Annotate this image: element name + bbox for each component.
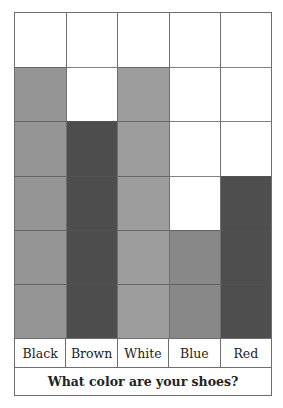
category-label-brown: Brown bbox=[66, 339, 117, 367]
gridline-horizontal bbox=[15, 284, 271, 285]
gridline-vertical bbox=[169, 13, 170, 338]
gridline-horizontal bbox=[15, 230, 271, 231]
gridline-vertical bbox=[66, 13, 67, 338]
category-label-red: Red bbox=[221, 339, 271, 367]
gridline-horizontal bbox=[15, 176, 271, 177]
chart-title: What color are your shoes? bbox=[14, 367, 272, 396]
category-label-black: Black bbox=[15, 339, 66, 367]
gridline-horizontal bbox=[15, 67, 271, 68]
category-label-blue: Blue bbox=[169, 339, 220, 367]
bar-black bbox=[15, 67, 66, 338]
bar-chart: Black Brown White Blue Red What color ar… bbox=[14, 12, 272, 396]
chart-grid bbox=[14, 12, 272, 339]
bar-red bbox=[220, 176, 271, 339]
bar-white bbox=[117, 67, 168, 338]
gridline-horizontal bbox=[15, 121, 271, 122]
gridline-vertical bbox=[220, 13, 221, 338]
gridline-vertical bbox=[117, 13, 118, 338]
category-label-white: White bbox=[118, 339, 169, 367]
category-labels-row: Black Brown White Blue Red bbox=[14, 339, 272, 367]
